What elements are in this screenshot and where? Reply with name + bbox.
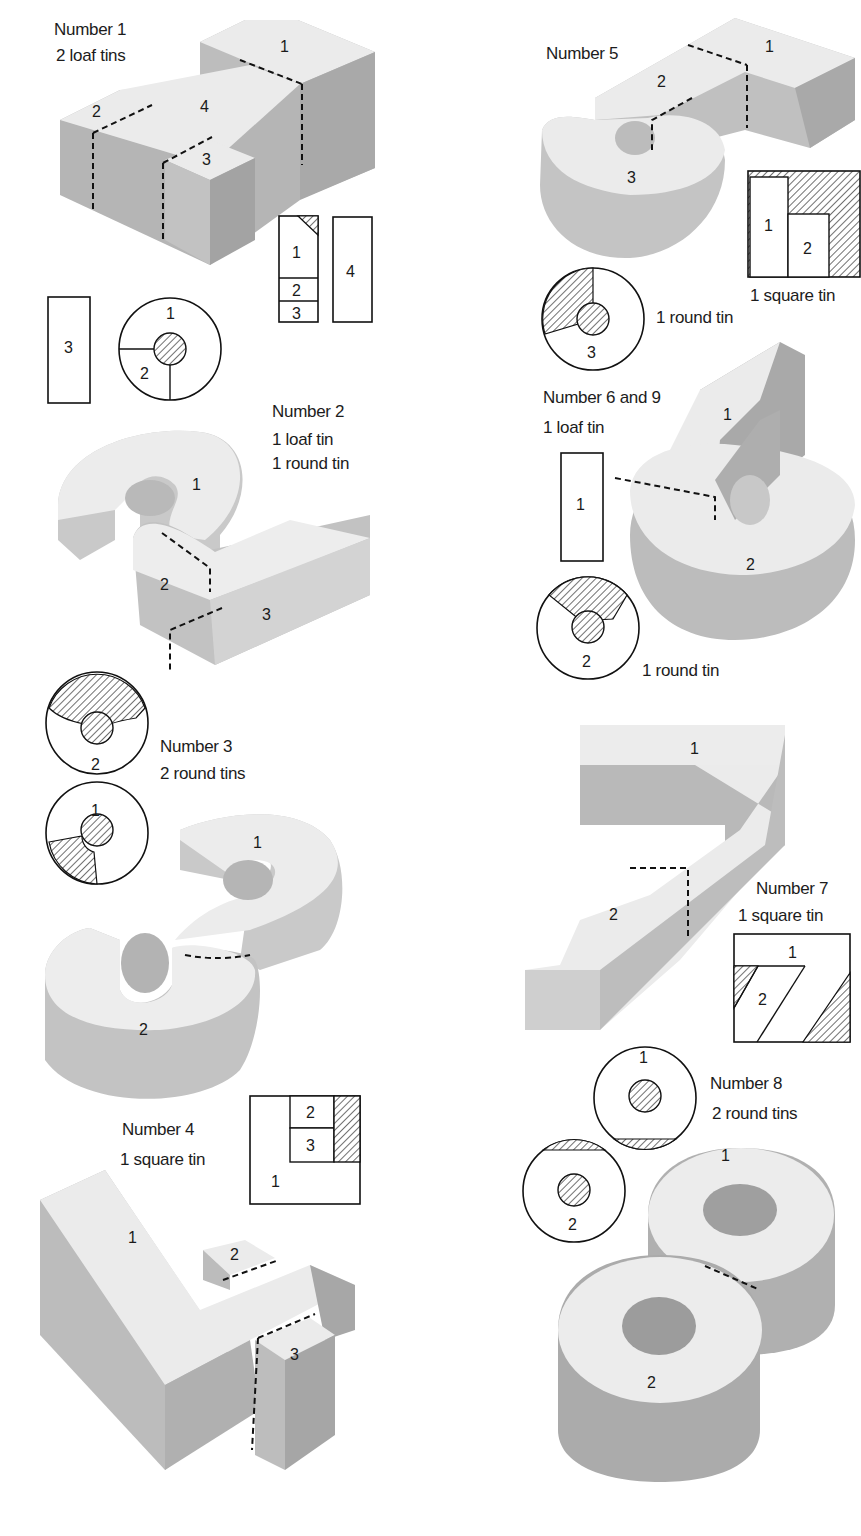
svg-text:2: 2 bbox=[139, 1021, 148, 1038]
svg-text:1: 1 bbox=[721, 1147, 730, 1164]
number-5-square-tin-template: 1 2 bbox=[747, 170, 861, 280]
svg-text:3: 3 bbox=[290, 1346, 299, 1363]
number-3-cake-illustration: 1 2 bbox=[0, 800, 400, 1100]
svg-text:2: 2 bbox=[140, 365, 149, 382]
number-1-round-tin-template: 1 2 bbox=[117, 296, 225, 404]
svg-text:1: 1 bbox=[253, 834, 262, 851]
svg-text:2: 2 bbox=[160, 576, 169, 593]
number-6-9-cake-illustration: 1 2 bbox=[630, 340, 861, 650]
svg-text:2: 2 bbox=[230, 1246, 239, 1263]
number-4-title: Number 4 bbox=[122, 1118, 194, 1142]
svg-text:1: 1 bbox=[128, 1229, 137, 1246]
number-4-cake-illustration: 1 2 3 bbox=[0, 1170, 400, 1470]
svg-text:2: 2 bbox=[647, 1374, 656, 1391]
svg-text:2: 2 bbox=[609, 906, 618, 923]
number-1-piece-4-label: 4 bbox=[200, 98, 209, 115]
number-1-piece-2-label: 2 bbox=[92, 103, 101, 120]
number-1-loaf-tin-template-b: 4 bbox=[332, 216, 374, 324]
number-3-title: Number 3 bbox=[160, 735, 232, 759]
number-7-tins: 1 square tin bbox=[738, 904, 823, 928]
number-6-9-loaf-tin-template: 1 bbox=[560, 452, 606, 564]
number-8-title: Number 8 bbox=[710, 1072, 782, 1096]
svg-text:2: 2 bbox=[91, 756, 100, 773]
svg-text:2: 2 bbox=[582, 653, 591, 670]
number-6-9-round-tin-template: 2 bbox=[535, 575, 643, 683]
svg-text:3: 3 bbox=[292, 305, 301, 322]
svg-text:1: 1 bbox=[166, 305, 175, 322]
number-8-tins: 2 round tins bbox=[712, 1102, 797, 1126]
number-6-9-round-tin-caption: 1 round tin bbox=[642, 659, 719, 683]
svg-text:2: 2 bbox=[758, 991, 767, 1008]
svg-text:2: 2 bbox=[306, 1104, 315, 1121]
svg-text:1: 1 bbox=[788, 944, 797, 961]
number-8-cake-illustration: 1 2 bbox=[550, 1130, 850, 1480]
svg-text:3: 3 bbox=[306, 1137, 315, 1154]
svg-text:3: 3 bbox=[627, 169, 636, 186]
number-4-tins: 1 square tin bbox=[120, 1148, 205, 1172]
number-1-piece-1-label: 1 bbox=[280, 38, 289, 55]
number-7-square-tin-template: 1 2 bbox=[733, 933, 853, 1045]
number-5-round-tin-caption: 1 round tin bbox=[656, 306, 733, 330]
svg-text:1: 1 bbox=[576, 496, 585, 513]
svg-text:1: 1 bbox=[723, 406, 732, 423]
number-7-title: Number 7 bbox=[756, 877, 828, 901]
svg-text:2: 2 bbox=[746, 556, 755, 573]
svg-text:1: 1 bbox=[192, 476, 201, 493]
number-6-9-tins: 1 loaf tin bbox=[543, 416, 604, 440]
number-1-loose-rect-template: 3 bbox=[47, 296, 93, 406]
svg-text:3: 3 bbox=[587, 344, 596, 361]
number-2-round-tin-template: 2 2 bbox=[44, 670, 152, 778]
svg-text:1: 1 bbox=[765, 38, 774, 55]
svg-text:1: 1 bbox=[639, 1049, 648, 1066]
svg-text:2: 2 bbox=[657, 73, 666, 90]
svg-text:3: 3 bbox=[64, 339, 73, 356]
svg-text:1: 1 bbox=[690, 740, 699, 757]
svg-text:2: 2 bbox=[292, 282, 301, 299]
svg-text:3: 3 bbox=[262, 606, 271, 623]
number-1-piece-3-label: 3 bbox=[202, 151, 211, 168]
svg-text:2: 2 bbox=[803, 240, 812, 257]
svg-text:1: 1 bbox=[292, 244, 301, 261]
number-1-loaf-tin-template-a: 1 2 3 bbox=[278, 215, 320, 325]
number-3-tins: 2 round tins bbox=[160, 762, 245, 786]
number-2-cake-illustration: 1 2 3 bbox=[0, 420, 400, 680]
svg-text:4: 4 bbox=[346, 263, 355, 280]
number-5-square-tin-caption: 1 square tin bbox=[750, 284, 835, 308]
svg-text:1: 1 bbox=[764, 217, 773, 234]
